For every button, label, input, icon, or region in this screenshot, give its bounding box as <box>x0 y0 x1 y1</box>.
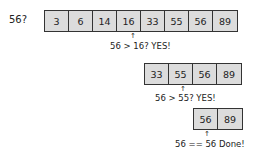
array-quarter: 56 89 <box>193 108 243 130</box>
array-cell: 3 <box>45 11 69 31</box>
array-cell: 89 <box>217 64 241 84</box>
array-cell: 55 <box>169 64 193 84</box>
up-arrow-icon: ↑ <box>180 86 186 93</box>
array-full: 3 6 14 16 33 55 56 89 <box>44 10 238 32</box>
array-cell: 56 <box>194 109 218 129</box>
step-note: 56 > 55? YES! <box>155 93 216 103</box>
array-cell: 55 <box>165 11 189 31</box>
array-half: 33 55 56 89 <box>144 63 242 85</box>
step-note: 56 == 56 Done! <box>175 139 245 149</box>
array-cell: 16 <box>117 11 141 31</box>
array-cell: 56 <box>193 64 217 84</box>
array-cell: 33 <box>141 11 165 31</box>
array-cell: 56 <box>189 11 213 31</box>
up-arrow-icon: ↑ <box>204 131 210 138</box>
step-note: 56 > 16? YES! <box>110 41 171 51</box>
array-cell: 89 <box>218 109 242 129</box>
array-cell: 89 <box>213 11 237 31</box>
array-cell: 6 <box>69 11 93 31</box>
array-cell: 33 <box>145 64 169 84</box>
up-arrow-icon: ↑ <box>130 33 136 40</box>
search-target-label: 56? <box>9 14 27 25</box>
array-cell: 14 <box>93 11 117 31</box>
